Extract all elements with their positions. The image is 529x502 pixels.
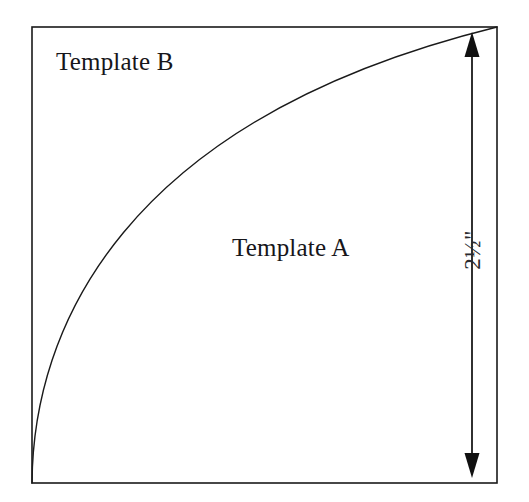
label-template-a: Template A: [232, 234, 350, 262]
dimension-label: 2½": [441, 220, 505, 280]
figure-canvas: Template B Template A 2½": [0, 0, 529, 502]
label-template-b: Template B: [56, 48, 174, 76]
